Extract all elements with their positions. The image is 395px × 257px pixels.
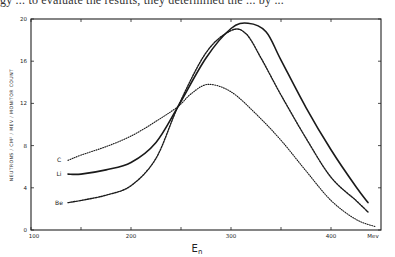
y-tick-label: 12 — [20, 100, 27, 106]
y-tick-label: 20 — [20, 16, 27, 22]
x-axis-title-sub: n — [198, 248, 202, 256]
series-label-li: Li — [56, 170, 61, 177]
neutron-spectrum-chart: 100200300400048121620 NEUTRONS / CM² / M… — [0, 0, 395, 257]
x-tick-label: 300 — [226, 233, 237, 239]
x-unit-label: Mev — [367, 233, 379, 239]
y-tick-label: 16 — [20, 58, 27, 64]
x-tick-label: 100 — [29, 233, 40, 239]
y-tick-label: 8 — [24, 143, 28, 149]
axis-ticks: 100200300400048121620 — [20, 16, 381, 239]
series-curve-c — [68, 84, 376, 226]
series-curve-be — [68, 29, 368, 212]
y-tick-label: 4 — [24, 185, 28, 191]
series-label-c: C — [57, 156, 61, 163]
y-axis-title: NEUTRONS / CM² / MEV / MONITOR COUNT — [9, 69, 14, 181]
series-label-be: Be — [55, 199, 63, 206]
series-curve-li — [68, 23, 368, 203]
x-axis-title: En — [192, 243, 203, 256]
data-curves — [68, 23, 376, 227]
x-tick-label: 400 — [326, 233, 337, 239]
y-tick-label: 0 — [24, 227, 28, 233]
x-tick-label: 200 — [126, 233, 137, 239]
